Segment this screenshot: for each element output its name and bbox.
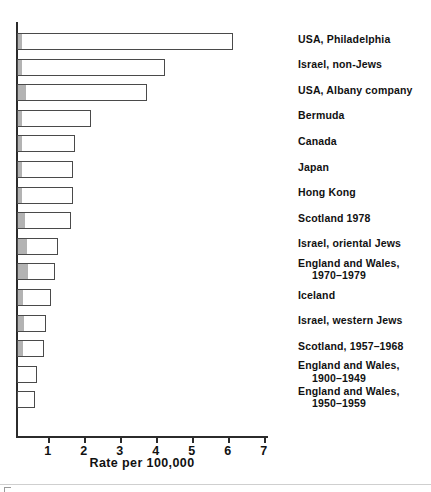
category-label: England and Wales,1900–1949 bbox=[298, 359, 400, 384]
bar bbox=[17, 315, 46, 332]
bar-chart-figure: 1234567 Rate per 100,000 USA, Philadelph… bbox=[0, 0, 431, 492]
bar bbox=[17, 366, 37, 383]
bar-row bbox=[17, 184, 277, 210]
plot-area: 1234567 Rate per 100,000 bbox=[0, 0, 290, 492]
x-axis-title: Rate per 100,000 bbox=[16, 456, 268, 470]
bar bbox=[17, 33, 233, 50]
category-label: England and Wales,1970–1979 bbox=[298, 257, 400, 282]
bar-row bbox=[17, 260, 277, 286]
category-label: England and Wales,1950–1959 bbox=[298, 385, 400, 410]
x-axis-tick bbox=[48, 436, 50, 443]
bar bbox=[17, 161, 73, 178]
x-axis-tick bbox=[84, 436, 86, 443]
bar-leading-segment bbox=[18, 213, 25, 228]
bar-row bbox=[17, 337, 277, 363]
bar-leading-segment bbox=[18, 290, 23, 305]
category-label: USA, Philadelphia bbox=[298, 33, 390, 46]
x-axis-tick bbox=[192, 436, 194, 443]
bar-row bbox=[17, 56, 277, 82]
bar-series bbox=[17, 30, 277, 430]
bar bbox=[17, 340, 44, 357]
x-axis-tick bbox=[156, 436, 158, 443]
bar-leading-segment bbox=[18, 162, 22, 177]
category-label: Hong Kong bbox=[298, 186, 356, 199]
x-axis-tick bbox=[228, 436, 230, 443]
bar bbox=[17, 110, 91, 127]
bar-leading-segment bbox=[18, 136, 22, 151]
category-label: Bermuda bbox=[298, 109, 345, 122]
bar bbox=[17, 289, 51, 306]
bar bbox=[17, 59, 165, 76]
bar bbox=[17, 212, 71, 229]
bar-row bbox=[17, 312, 277, 338]
bar-row bbox=[17, 81, 277, 107]
corner-mark-icon bbox=[4, 487, 11, 492]
category-label-line: England and Wales, bbox=[298, 257, 400, 269]
category-label: Israel, non-Jews bbox=[298, 58, 382, 71]
bar-row bbox=[17, 107, 277, 133]
category-label: Iceland bbox=[298, 289, 335, 302]
category-label: USA, Albany company bbox=[298, 84, 412, 97]
bar-leading-segment bbox=[18, 111, 22, 126]
bar-leading-segment bbox=[18, 264, 28, 279]
category-label: Japan bbox=[298, 161, 329, 174]
bar-row bbox=[17, 158, 277, 184]
bar-row bbox=[17, 388, 277, 414]
category-label: Scotland, 1957–1968 bbox=[298, 340, 404, 353]
bar-leading-segment bbox=[18, 188, 22, 203]
bar-leading-segment bbox=[18, 239, 27, 254]
category-label: Israel, western Jews bbox=[298, 314, 403, 327]
category-label-line: England and Wales, bbox=[298, 385, 400, 397]
bar-row bbox=[17, 235, 277, 261]
category-label: Canada bbox=[298, 135, 337, 148]
footer-divider bbox=[0, 484, 431, 485]
bar-leading-segment bbox=[18, 60, 22, 75]
x-axis-tick bbox=[120, 436, 122, 443]
bar-row bbox=[17, 286, 277, 312]
category-labels: USA, PhiladelphiaIsrael, non-JewsUSA, Al… bbox=[298, 30, 431, 430]
bar-leading-segment bbox=[18, 85, 26, 100]
bar bbox=[17, 391, 35, 408]
category-label-line: 1950–1959 bbox=[298, 397, 400, 410]
bar-leading-segment bbox=[18, 341, 23, 356]
category-label: Scotland 1978 bbox=[298, 212, 371, 225]
bar-leading-segment bbox=[18, 34, 22, 49]
bar bbox=[17, 263, 55, 280]
bar bbox=[17, 187, 73, 204]
bar bbox=[17, 238, 58, 255]
x-axis-tick bbox=[264, 436, 266, 443]
bar-row bbox=[17, 30, 277, 56]
category-label-line: 1900–1949 bbox=[298, 372, 400, 385]
bar bbox=[17, 84, 147, 101]
bar-row bbox=[17, 209, 277, 235]
bar-row bbox=[17, 132, 277, 158]
bar-row bbox=[17, 363, 277, 389]
category-label-line: England and Wales, bbox=[298, 359, 400, 371]
bar bbox=[17, 135, 75, 152]
bar-leading-segment bbox=[18, 316, 24, 331]
category-label: Israel, oriental Jews bbox=[298, 237, 401, 250]
category-label-line: 1970–1979 bbox=[298, 269, 400, 282]
